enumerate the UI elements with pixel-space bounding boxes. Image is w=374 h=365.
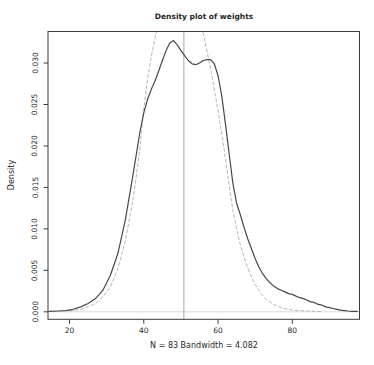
- y-tick-label: 0.015: [31, 176, 40, 198]
- y-tick-label: 0.010: [30, 218, 39, 240]
- plot-border: [48, 32, 360, 320]
- normal-reference-curve: [70, 0, 323, 311]
- y-tick-label: 0.020: [30, 135, 39, 157]
- x-tick-label: 40: [139, 326, 149, 335]
- y-tick-label: 0.030: [31, 52, 40, 74]
- x-tick-label: 60: [213, 326, 223, 335]
- kernel-density-curve: [49, 41, 357, 312]
- y-tick-label: 0.000: [31, 301, 40, 323]
- density-plot-canvas: 204060800.0000.0050.0100.0150.0200.0250.…: [0, 0, 374, 365]
- y-tick-label: 0.005: [30, 259, 39, 281]
- x-tick-label: 20: [65, 326, 75, 335]
- y-tick-label: 0.025: [30, 94, 39, 116]
- density-plot-figure: Density plot of weights Density N = 83 B…: [0, 0, 374, 365]
- x-tick-label: 80: [288, 326, 298, 335]
